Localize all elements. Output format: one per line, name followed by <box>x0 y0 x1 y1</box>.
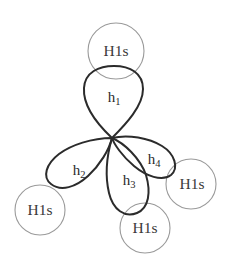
hybrid-label-h4: h4 <box>148 151 162 169</box>
hybrid-orbital-lobe-group <box>46 66 175 214</box>
hybrid-label-h4-sub: 4 <box>155 158 161 169</box>
hybrid-label-h2: h2 <box>73 162 86 180</box>
h1s-label-bottom: H1s <box>133 219 158 236</box>
h1s-label-bottom-left: H1s <box>28 201 53 218</box>
hybrid-label-h2-sub: 2 <box>80 169 85 180</box>
h1s-label-top: H1s <box>104 42 129 59</box>
hybrid-label-h3-sub: 3 <box>130 179 135 190</box>
hybrid-label-h1: h1 <box>108 89 121 107</box>
hybrid-label-h1-sub: 1 <box>115 96 120 107</box>
h1s-label-right: H1s <box>180 175 205 192</box>
orbital-diagram-canvas: H1s H1s H1s H1s h1 h2 h3 h4 <box>0 0 234 265</box>
hybrid-label-h3: h3 <box>123 172 136 190</box>
orbital-diagram: H1s H1s H1s H1s h1 h2 h3 h4 <box>0 0 234 265</box>
